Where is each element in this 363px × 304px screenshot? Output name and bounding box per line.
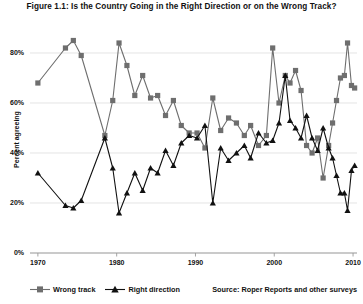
x-tick-label: 1980 — [102, 259, 132, 266]
y-axis-label: Percent agreeing — [13, 100, 20, 180]
x-tick-label: 1970 — [23, 259, 53, 266]
source-note: Source: Roper Reports and other surveys — [212, 285, 357, 294]
y-tick-label: 20% — [0, 199, 24, 206]
triangle-marker-icon — [105, 285, 125, 294]
legend-item-wrong-track[interactable]: Wrong track — [30, 285, 95, 294]
y-tick-label: 60% — [0, 99, 24, 106]
chart-svg — [0, 16, 363, 278]
y-tick-label: 0% — [0, 249, 24, 256]
y-tick-label: 80% — [0, 49, 24, 56]
plot-area: Percent agreeing 0%20%40%60%80% 19701980… — [0, 16, 363, 278]
x-tick-label: 2000 — [259, 259, 289, 266]
chart-legend: Wrong trackRight direction — [30, 285, 180, 294]
square-marker-icon — [30, 285, 50, 294]
x-tick-label: 2010 — [338, 259, 363, 266]
chart-title: Figure 1.1: Is the Country Going in the … — [0, 2, 363, 11]
figure-container: Figure 1.1: Is the Country Going in the … — [0, 0, 363, 304]
legend-label: Wrong track — [53, 285, 95, 294]
gridlines — [30, 53, 357, 253]
series-layer — [35, 38, 358, 216]
axis-lines — [30, 253, 357, 257]
x-tick-label: 1990 — [180, 259, 210, 266]
legend-label: Right direction — [128, 285, 179, 294]
legend-item-right-direction[interactable]: Right direction — [105, 285, 179, 294]
y-tick-label: 40% — [0, 149, 24, 156]
